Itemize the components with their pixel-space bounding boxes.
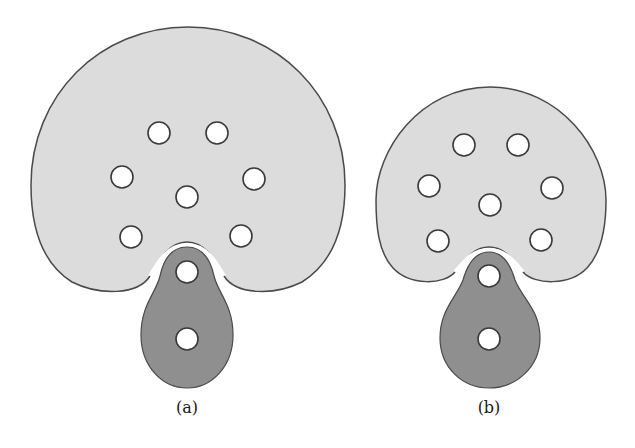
figure-canvas [0,0,635,448]
hole-light-a-0 [148,122,170,144]
hole-light-a-4 [176,186,198,208]
hole-dark-a-1 [176,328,198,350]
caption-b: (b) [459,398,519,417]
hole-light-b-1 [507,134,529,156]
hole-light-a-6 [230,225,252,247]
hole-dark-b-1 [478,328,500,350]
hole-light-b-3 [541,177,563,199]
hole-light-a-2 [111,166,133,188]
hole-light-b-5 [427,230,449,252]
hole-dark-a-0 [176,261,198,283]
hole-light-a-5 [120,226,142,248]
hole-light-b-6 [530,229,552,251]
caption-a: (a) [157,398,217,417]
hole-light-b-4 [479,194,501,216]
hole-light-a-3 [243,168,265,190]
hole-dark-b-0 [478,265,500,287]
hole-light-b-0 [453,134,475,156]
hole-light-b-2 [418,175,440,197]
hole-light-a-1 [206,122,228,144]
